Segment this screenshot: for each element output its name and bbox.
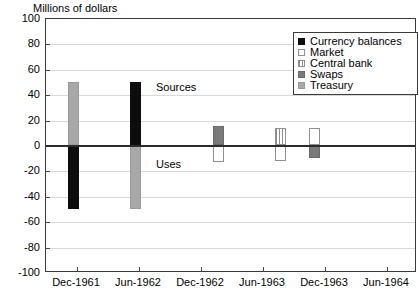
- y-axis-tick-label: 20: [0, 114, 40, 126]
- legend-swatch-central-bank-icon: [298, 60, 305, 67]
- gridline: [46, 171, 415, 172]
- x-axis-tick-mark: [201, 267, 202, 271]
- y-axis-tick-mark: [46, 222, 50, 223]
- legend-swatch-swaps-icon: [298, 71, 305, 78]
- x-axis-tick-mark: [387, 267, 388, 271]
- legend-label-treasury: Treasury: [310, 80, 353, 91]
- bar-treasury-jun-1962: [130, 145, 141, 208]
- bar-currency-balances-jun-1962: [130, 82, 141, 145]
- y-axis-tick-label: 100: [0, 12, 40, 24]
- y-axis-tick-mark: [46, 248, 50, 249]
- bar-treasury-dec-1961: [68, 82, 79, 145]
- y-axis-tick-label: 80: [0, 37, 40, 49]
- gridline: [46, 197, 415, 198]
- chart-container: Millions of dollars 100 80 60 40 20 0 -2…: [0, 0, 419, 297]
- legend-swatch-market-icon: [298, 49, 305, 56]
- y-axis-tick-label: -100: [0, 266, 40, 278]
- bar-market-jun-1963: [213, 145, 224, 162]
- x-axis-tick-label: Jun-1963: [239, 276, 285, 288]
- gridline: [46, 222, 415, 223]
- x-axis-tick-label: Dec-1963: [300, 276, 348, 288]
- gridline: [46, 95, 415, 96]
- x-axis-tick-label: Dec-1961: [52, 276, 100, 288]
- plot-area: Sources Uses Currency balances Market Ce…: [45, 18, 416, 272]
- chart-title: Millions of dollars: [33, 2, 117, 14]
- y-axis-tick-label: -20: [0, 164, 40, 176]
- zero-baseline: [46, 145, 415, 147]
- legend-item-treasury: Treasury: [298, 80, 413, 91]
- bar-currency-balances-dec-1961: [68, 145, 79, 208]
- x-axis-tick-label: Dec-1962: [176, 276, 224, 288]
- legend-swatch-currency-balances-icon: [298, 38, 305, 45]
- x-axis-tick-mark: [77, 267, 78, 271]
- y-axis-tick-label: 40: [0, 88, 40, 100]
- y-axis-tick-label: -40: [0, 190, 40, 202]
- y-axis-tick-mark: [46, 70, 50, 71]
- annotation-sources: Sources: [156, 81, 196, 93]
- y-axis-tick-mark: [46, 121, 50, 122]
- x-axis-tick-label: Jun-1962: [115, 276, 161, 288]
- y-axis-tick-label: -80: [0, 241, 40, 253]
- y-axis-tick-mark: [46, 44, 50, 45]
- annotation-uses: Uses: [156, 158, 181, 170]
- y-axis-tick-mark: [46, 197, 50, 198]
- bar-central-bank-dec-1963: [275, 128, 286, 146]
- x-axis-tick-mark: [139, 267, 140, 271]
- y-axis-tick-label: 0: [0, 139, 40, 151]
- y-axis-tick-label: -60: [0, 215, 40, 227]
- chart-legend: Currency balances Market Central bank Sw…: [293, 32, 418, 95]
- y-axis-tick-mark: [46, 171, 50, 172]
- x-axis-tick-label: Jun-1964: [363, 276, 409, 288]
- bar-market-dec-1963: [275, 145, 286, 160]
- x-axis-tick-mark: [263, 267, 264, 271]
- bar-market-mar-1964: [309, 128, 320, 146]
- gridline: [46, 121, 415, 122]
- bar-swaps-jun-1963: [213, 126, 224, 145]
- y-axis-tick-label: 60: [0, 63, 40, 75]
- y-axis-tick-mark: [46, 95, 50, 96]
- x-axis-tick-mark: [325, 267, 326, 271]
- gridline: [46, 248, 415, 249]
- legend-swatch-treasury-icon: [298, 82, 305, 89]
